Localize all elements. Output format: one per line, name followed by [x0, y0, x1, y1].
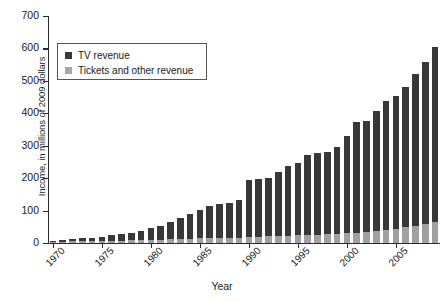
bar-1979 [138, 231, 145, 243]
y-tick-label-700: 700 [21, 9, 39, 21]
bar-2003 [373, 111, 380, 243]
bar-segment-tickets-1973 [79, 241, 86, 243]
x-tick-label-1980: 1980 [150, 252, 158, 260]
bar-segment-tickets-1985 [197, 238, 204, 243]
x-tick-label-2000: 2000 [346, 252, 354, 260]
bar-segment-tv-1995 [295, 163, 302, 235]
bar-segment-tv-1980 [148, 228, 155, 240]
bar-segment-tv-1985 [197, 210, 204, 239]
x-tick-label-1970: 1970 [52, 252, 60, 260]
bar-segment-tv-2003 [373, 111, 380, 231]
bar-segment-tv-2008 [422, 62, 429, 224]
bar-segment-tv-1984 [187, 214, 194, 239]
bar-2000 [344, 136, 351, 243]
bar-segment-tv-1973 [79, 238, 86, 241]
y-tick-600: 600 [43, 48, 48, 49]
bar-1989 [236, 200, 243, 243]
bar-segment-tickets-1992 [265, 236, 272, 243]
bar-2005 [393, 96, 400, 243]
bar-segment-tv-1994 [285, 166, 292, 236]
bar-segment-tv-2002 [363, 121, 370, 232]
bar-segment-tv-1983 [177, 218, 184, 239]
x-tick-1985 [200, 244, 201, 248]
x-tick-2000 [347, 244, 348, 248]
bar-1984 [187, 214, 194, 244]
bar-segment-tickets-1999 [334, 234, 341, 243]
bar-segment-tickets-1975 [99, 241, 106, 243]
bar-segment-tickets-2003 [373, 231, 380, 243]
bar-segment-tv-1992 [265, 178, 272, 236]
bar-1975 [99, 237, 106, 243]
bar-1978 [128, 233, 135, 243]
bar-segment-tickets-1990 [246, 237, 253, 243]
legend-item-tickets-and-other-revenue: Tickets and other revenue [65, 63, 206, 77]
bar-segment-tickets-1982 [167, 239, 174, 243]
bar-segment-tickets-1998 [324, 234, 331, 243]
bar-segment-tv-1991 [255, 179, 262, 237]
bar-segment-tv-1997 [314, 153, 321, 235]
bar-segment-tickets-1976 [108, 241, 115, 243]
bar-segment-tickets-2008 [422, 224, 429, 243]
bar-2007 [412, 74, 419, 243]
bar-1972 [69, 239, 76, 243]
bar-1983 [177, 218, 184, 243]
x-tick-label-1995: 1995 [297, 252, 305, 260]
bar-1995 [295, 163, 302, 243]
bar-segment-tickets-2000 [344, 233, 351, 243]
chart-legend: TV revenue Tickets and other revenue [57, 43, 207, 80]
bar-2002 [363, 121, 370, 243]
bar-1977 [118, 234, 125, 243]
bar-segment-tv-1971 [59, 240, 66, 242]
bar-1999 [334, 147, 341, 243]
bar-1971 [59, 240, 66, 243]
bar-segment-tv-2006 [402, 87, 409, 227]
y-tick-100: 100 [43, 211, 48, 212]
bar-segment-tv-1996 [304, 155, 311, 235]
bar-segment-tickets-1981 [157, 240, 164, 243]
bar-segment-tickets-1986 [206, 238, 213, 243]
bar-1973 [79, 238, 86, 243]
bar-segment-tv-2007 [412, 74, 419, 226]
bar-segment-tickets-2009 [432, 222, 439, 243]
x-tick-label-1985: 1985 [199, 252, 207, 260]
bar-segment-tv-1986 [206, 206, 213, 238]
bar-segment-tickets-1993 [275, 236, 282, 243]
bar-1990 [246, 180, 253, 243]
bar-segment-tv-1982 [167, 222, 174, 239]
y-tick-label-400: 400 [21, 106, 39, 118]
bar-1985 [197, 210, 204, 243]
y-tick-500: 500 [43, 81, 48, 82]
bar-segment-tickets-1989 [236, 238, 243, 244]
bar-2006 [402, 87, 409, 243]
y-tick-label-300: 300 [21, 139, 39, 151]
x-tick-label-1975: 1975 [101, 252, 109, 260]
x-axis-line [48, 243, 440, 244]
bar-segment-tv-1998 [324, 152, 331, 235]
bar-1997 [314, 153, 321, 243]
bar-segment-tv-2004 [383, 101, 390, 230]
bar-segment-tv-1978 [128, 233, 135, 241]
bar-1998 [324, 152, 331, 243]
legend-label-tv-revenue: TV revenue [78, 50, 130, 61]
bar-1976 [108, 235, 115, 243]
bar-2001 [353, 122, 360, 243]
bar-segment-tickets-1996 [304, 235, 311, 243]
bar-segment-tv-1974 [89, 238, 96, 242]
bar-segment-tickets-1994 [285, 236, 292, 243]
bar-segment-tickets-1971 [59, 242, 66, 243]
bar-segment-tickets-1988 [226, 238, 233, 243]
bar-segment-tickets-2001 [353, 233, 360, 243]
x-tick-1980 [151, 244, 152, 248]
bar-1992 [265, 178, 272, 243]
bar-segment-tickets-1979 [138, 240, 145, 243]
chart-figure: Income, in millions of 2009 dollars 0100… [0, 0, 444, 301]
bar-segment-tickets-1977 [118, 241, 125, 243]
bar-segment-tv-1981 [157, 226, 164, 240]
y-tick-200: 200 [43, 178, 48, 179]
bar-1987 [216, 204, 223, 243]
bar-segment-tv-2001 [353, 122, 360, 232]
bar-segment-tickets-1972 [69, 241, 76, 243]
y-tick-label-0: 0 [33, 236, 39, 248]
x-tick-2005 [396, 244, 397, 248]
bar-1974 [89, 238, 96, 244]
